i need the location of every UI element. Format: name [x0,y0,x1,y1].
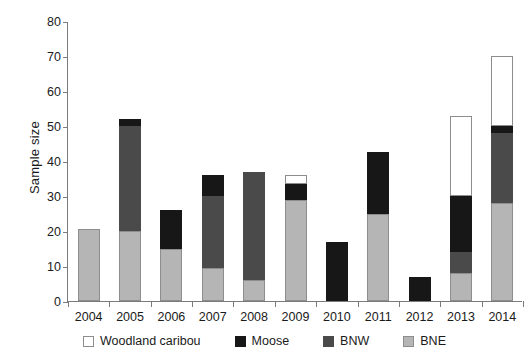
bar-segment-caribou [491,56,513,126]
bar-segment-bnw [491,133,513,203]
bar-segment-bne [119,231,141,301]
legend-item-bne: BNE [403,334,446,348]
y-axis-tick-label: 60 [21,86,68,99]
bar-segment-bnw [202,196,224,268]
bar-segment-bnw [450,252,472,273]
bar-segment-bne [78,229,100,301]
bar-segment-bne [450,273,472,301]
bar-segment-moose [202,175,224,196]
y-axis-tick-mark [63,267,68,268]
bar-segment-moose [491,126,513,133]
sample-size-stacked-bar-chart: Sample size 0102030405060708020042005200… [0,0,529,363]
legend-label: Woodland caribou [100,334,201,348]
bar-segment-bne [285,200,307,302]
legend-label: BNE [420,334,446,348]
bar-2012 [409,277,431,302]
legend-item-bnw: BNW [323,334,369,348]
bar-segment-bne [202,268,224,301]
bar-segment-moose [409,277,431,302]
y-axis-tick-mark [63,57,68,58]
plot-area: 0102030405060708020042005200620072008200… [67,22,522,302]
bar-2014 [491,56,513,301]
bar-segment-moose [326,242,348,302]
bar-segment-caribou [285,175,307,184]
bar-segment-bne [491,203,513,301]
bar-segment-moose [285,184,307,200]
y-axis-tick-label: 80 [21,16,68,29]
bar-2004 [78,229,100,301]
bar-2009 [285,175,307,301]
y-axis-tick-label: 40 [21,156,68,169]
x-axis-tick-mark [275,301,276,307]
bar-segment-bne [367,214,389,302]
x-axis-tick-label: 2014 [472,310,529,324]
x-axis-tick-mark [233,301,234,307]
legend-label: BNW [340,334,369,348]
bar-segment-bnw [119,126,141,231]
bar-2011 [367,152,389,301]
legend-swatch-caribou-icon [83,336,94,347]
bar-2008 [243,172,265,302]
bar-2007 [202,175,224,301]
bar-2005 [119,119,141,301]
y-axis-tick-label: 10 [21,261,68,274]
bar-segment-moose [160,210,182,249]
y-axis-tick-label: 0 [21,296,68,309]
x-axis-tick-mark [358,301,359,307]
x-axis-tick-mark [151,301,152,307]
bar-segment-caribou [450,116,472,197]
bar-2010 [326,242,348,302]
bar-segment-moose [119,119,141,126]
bar-segment-moose [367,152,389,213]
bar-segment-bnw [243,172,265,281]
x-axis-tick-mark [316,301,317,307]
x-axis-tick-mark [68,301,69,307]
legend-swatch-bnw-icon [323,336,334,347]
legend-item-moose: Moose [235,334,290,348]
y-axis-tick-mark [63,22,68,23]
x-axis-tick-mark [192,301,193,307]
y-axis-tick-mark [63,232,68,233]
x-axis-tick-mark [482,301,483,307]
y-axis-tick-mark [63,127,68,128]
bar-2013 [450,116,472,302]
x-axis-tick-mark [109,301,110,307]
y-axis-tick-mark [63,197,68,198]
x-axis-tick-mark [440,301,441,307]
legend-item-caribou: Woodland caribou [83,334,201,348]
y-axis-tick-label: 50 [21,121,68,134]
bar-segment-moose [450,196,472,252]
y-axis-tick-label: 70 [21,51,68,64]
legend-swatch-bne-icon [403,336,414,347]
y-axis-tick-mark [63,162,68,163]
bar-segment-bne [243,280,265,301]
x-axis-tick-mark [399,301,400,307]
bar-segment-bne [160,249,182,302]
chart-legend: Woodland caribouMooseBNWBNE [0,334,529,348]
legend-label: Moose [252,334,290,348]
y-axis-tick-label: 20 [21,226,68,239]
bar-2006 [160,210,182,301]
y-axis-tick-label: 30 [21,191,68,204]
x-axis-tick-mark [523,301,524,307]
y-axis-tick-mark [63,92,68,93]
legend-swatch-moose-icon [235,336,246,347]
